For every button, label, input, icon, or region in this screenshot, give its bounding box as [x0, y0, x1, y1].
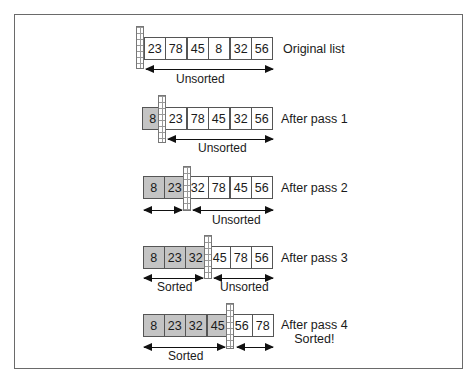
unsorted-span-arrow — [146, 69, 273, 70]
list-cell: 56 — [251, 246, 273, 269]
list-cell: 32 — [230, 37, 252, 60]
list-cell: 8 — [208, 37, 230, 60]
arrowhead-right-icon — [174, 206, 183, 214]
wall-marker — [136, 26, 144, 69]
arrowhead-right-icon — [217, 343, 226, 351]
arrowhead-left-icon — [167, 135, 176, 143]
list-cell-sorted: 8 — [143, 314, 165, 337]
sorted-span-arrow — [144, 347, 225, 348]
list-cell: 78 — [165, 37, 187, 60]
list-cell-sorted: 8 — [143, 176, 165, 199]
wall-marker — [183, 166, 191, 211]
row-label-sub: Sorted! — [281, 332, 348, 346]
row-label: After pass 1 — [281, 112, 348, 126]
list-cell: 78 — [208, 176, 230, 199]
arrowhead-right-icon — [265, 65, 274, 73]
arrowhead-right-icon — [265, 206, 274, 214]
list-cell-sorted: 8 — [143, 246, 165, 269]
row-label: After pass 2 — [281, 181, 348, 195]
row-label: After pass 3 — [281, 251, 348, 265]
arrowhead-left-icon — [236, 343, 245, 351]
wall-marker — [204, 235, 212, 279]
arrowhead-right-icon — [265, 135, 274, 143]
list-cell: 56 — [251, 37, 273, 60]
list-cell: 45 — [230, 176, 252, 199]
sorted-label: Sorted — [168, 349, 203, 363]
unsorted-label: Unsorted — [212, 213, 261, 227]
list-cell: 78 — [187, 107, 209, 130]
arrowhead-left-icon — [143, 206, 152, 214]
remaining-span-arrow — [237, 347, 273, 348]
arrowhead-right-icon — [265, 343, 274, 351]
list-cell: 32 — [230, 107, 252, 130]
arrowhead-left-icon — [145, 65, 154, 73]
unsorted-span-arrow — [193, 210, 273, 211]
unsorted-label: Unsorted — [176, 72, 225, 86]
list-cell-sorted: 32 — [185, 314, 207, 337]
arrowhead-left-icon — [143, 274, 152, 282]
unsorted-span-arrow — [168, 139, 273, 140]
row-label: Original list — [283, 42, 345, 56]
list-cell: 56 — [251, 176, 273, 199]
list-cell: 78 — [230, 246, 252, 269]
wall-marker — [158, 95, 166, 143]
sorted-label: Sorted — [157, 280, 192, 294]
sorted-span-arrow — [144, 278, 203, 279]
wall-marker — [226, 303, 234, 349]
list-cell-sorted: 23 — [164, 246, 186, 269]
list-cell: 78 — [252, 314, 274, 337]
list-cell-sorted: 23 — [164, 314, 186, 337]
list-cell: 56 — [251, 107, 273, 130]
list-cell: 23 — [144, 37, 166, 60]
unsorted-span-arrow — [214, 278, 273, 279]
list-cell: 45 — [209, 246, 231, 269]
list-cell: 23 — [165, 107, 187, 130]
unsorted-label: Unsorted — [220, 280, 269, 294]
sorted-span-arrow — [144, 210, 182, 211]
row-label-main: After pass 4 — [281, 318, 348, 332]
list-cell: 45 — [187, 37, 209, 60]
row-label: After pass 4 Sorted! — [281, 318, 348, 346]
list-cell: 45 — [208, 107, 230, 130]
arrowhead-right-icon — [195, 274, 204, 282]
arrowhead-left-icon — [143, 343, 152, 351]
list-cell: 56 — [231, 314, 253, 337]
arrowhead-left-icon — [192, 206, 201, 214]
unsorted-label: Unsorted — [198, 141, 247, 155]
